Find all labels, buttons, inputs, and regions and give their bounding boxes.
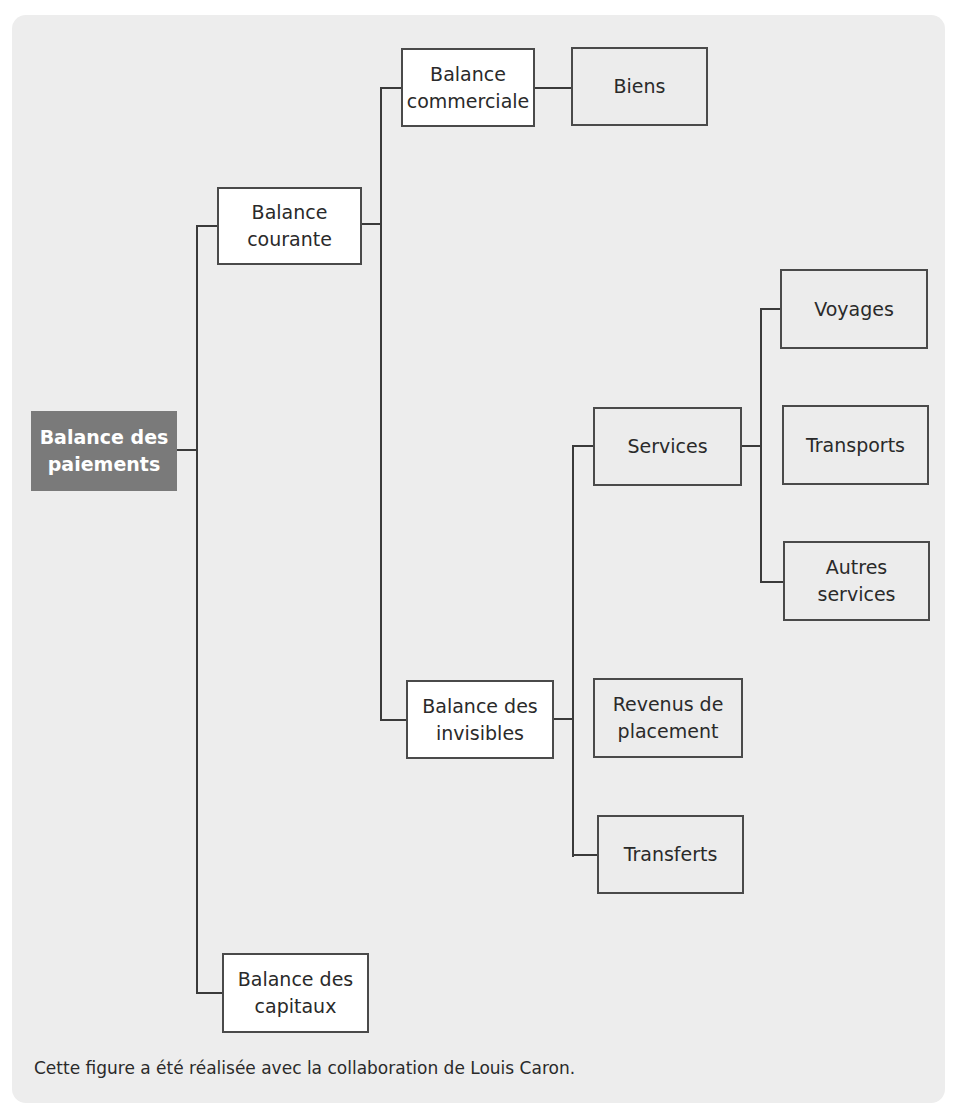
node-balance-courante: Balance courante	[217, 187, 362, 265]
connector-services-right	[741, 445, 761, 447]
connector-root-vertical	[196, 225, 198, 994]
connector-to-capitaux	[196, 992, 223, 994]
connector-to-courante	[196, 225, 218, 227]
connector-to-transferts	[572, 854, 598, 856]
node-label: Biens	[614, 73, 666, 100]
node-services: Services	[593, 407, 742, 486]
node-voyages: Voyages	[780, 269, 928, 349]
node-label: Autres services	[818, 554, 896, 608]
node-balance-des-invisibles: Balance des invisibles	[406, 680, 554, 759]
node-biens: Biens	[571, 47, 708, 126]
node-label: Balance des invisibles	[422, 693, 537, 747]
node-balance-commerciale: Balance commerciale	[401, 48, 535, 127]
connector-to-invisibles	[380, 719, 407, 721]
connector-to-autres-services	[760, 581, 784, 583]
node-revenus-de-placement: Revenus de placement	[593, 678, 743, 758]
connector-to-voyages	[760, 308, 781, 310]
node-label: Balance des paiements	[40, 424, 169, 478]
node-balance-des-paiements: Balance des paiements	[31, 411, 177, 491]
figure-caption: Cette figure a été réalisée avec la coll…	[34, 1058, 575, 1078]
node-label: Voyages	[814, 296, 894, 323]
node-label: Balance commerciale	[407, 61, 530, 115]
node-transferts: Transferts	[597, 815, 744, 894]
connector-invisibles-right	[553, 718, 573, 720]
node-transports: Transports	[782, 405, 929, 485]
connector-commerciale-to-biens	[534, 87, 572, 89]
node-label: Revenus de placement	[613, 691, 724, 745]
connector-to-services	[572, 445, 594, 447]
node-label: Transports	[806, 432, 905, 459]
node-label: Balance des capitaux	[238, 966, 353, 1020]
connector-courante-right	[361, 223, 381, 225]
node-label: Services	[627, 433, 707, 460]
connector-invisibles-vertical	[572, 445, 574, 857]
node-label: Transferts	[624, 841, 718, 868]
node-label: Balance courante	[247, 199, 332, 253]
connector-to-commerciale	[380, 87, 402, 89]
connector-root-to-spine	[177, 449, 197, 451]
connector-courante-vertical	[380, 87, 382, 721]
node-autres-services: Autres services	[783, 541, 930, 621]
node-balance-des-capitaux: Balance des capitaux	[222, 953, 369, 1033]
